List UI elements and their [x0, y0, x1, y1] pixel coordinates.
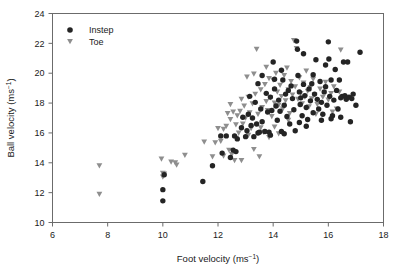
data-point-instep: [316, 106, 321, 111]
data-point-instep: [273, 103, 278, 108]
data-point-instep: [323, 62, 328, 67]
data-point-instep: [304, 105, 309, 110]
x-axis-title: Foot velocity (ms−1): [177, 253, 259, 265]
data-point-toe: [255, 112, 261, 117]
data-point-instep: [345, 59, 350, 64]
data-point-toe: [263, 65, 269, 70]
data-point-toe: [228, 117, 234, 122]
x-axis-ticks: 681012141618: [50, 223, 389, 240]
data-point-instep: [270, 59, 275, 64]
data-point-instep: [160, 198, 165, 203]
data-point-instep: [269, 108, 274, 113]
data-point-instep: [335, 106, 340, 111]
data-point-toe: [284, 66, 290, 71]
data-point-instep: [306, 86, 311, 91]
data-point-instep: [276, 97, 281, 102]
data-point-toe: [262, 82, 268, 87]
legend-label-instep: Instep: [89, 25, 114, 35]
data-point-instep: [235, 136, 240, 141]
data-point-instep: [251, 134, 256, 139]
data-point-instep: [313, 57, 318, 62]
data-point-instep: [277, 109, 282, 114]
data-point-instep: [259, 119, 264, 124]
scatter-plot-figure: 681012141618 1012141618202224 InstepToe …: [0, 0, 398, 274]
data-point-instep: [258, 106, 263, 111]
data-point-instep: [312, 91, 317, 96]
data-point-instep: [327, 94, 332, 99]
data-point-instep: [67, 27, 73, 33]
data-point-instep: [301, 82, 306, 87]
data-point-instep: [282, 131, 287, 136]
data-point-instep: [293, 128, 298, 133]
data-point-instep: [257, 129, 262, 134]
data-point-toe: [251, 71, 257, 76]
data-point-instep: [297, 120, 302, 125]
data-point-instep: [338, 115, 343, 120]
data-point-instep: [268, 132, 273, 137]
y-tick-label: 12: [34, 188, 44, 198]
data-point-instep: [219, 150, 224, 155]
data-point-toe: [303, 69, 309, 74]
y-tick-label: 16: [34, 128, 44, 138]
x-tick-label: 16: [323, 230, 333, 240]
y-tick-label: 10: [34, 218, 44, 228]
data-point-instep: [295, 47, 300, 52]
data-point-instep: [308, 98, 313, 103]
data-point-instep: [350, 91, 355, 96]
y-axis-ticks: 1012141618202224: [34, 9, 52, 228]
data-point-instep: [287, 121, 292, 126]
data-point-toe: [67, 39, 73, 44]
data-point-instep: [200, 179, 205, 184]
data-point-instep: [228, 155, 233, 160]
x-tick-label: 8: [105, 230, 110, 240]
data-point-toe: [320, 95, 326, 100]
data-point-toe: [244, 74, 250, 79]
data-point-instep: [240, 115, 245, 120]
data-point-toe: [263, 99, 269, 104]
data-point-instep: [160, 187, 165, 192]
data-point-toe: [338, 48, 344, 53]
data-point-instep: [299, 113, 304, 118]
data-point-toe: [269, 114, 275, 119]
data-point-toe: [251, 147, 257, 152]
data-point-toe: [254, 47, 260, 52]
data-point-instep: [243, 134, 248, 139]
data-point-instep: [331, 97, 336, 102]
data-point-instep: [275, 118, 280, 123]
data-point-instep: [321, 89, 326, 94]
chart-canvas: 681012141618 1012141618202224 InstepToe …: [0, 0, 398, 274]
data-point-instep: [291, 107, 296, 112]
data-point-instep: [290, 96, 295, 101]
data-point-instep: [302, 93, 307, 98]
data-point-instep: [255, 81, 260, 86]
data-point-instep: [337, 77, 342, 82]
data-point-toe: [96, 163, 102, 168]
y-tick-label: 22: [34, 39, 44, 49]
x-tick-label: 14: [268, 230, 278, 240]
data-point-toe: [234, 113, 240, 118]
data-point-instep: [317, 79, 322, 84]
data-point-instep: [233, 149, 238, 154]
data-point-toe: [218, 139, 224, 144]
data-point-instep: [253, 100, 258, 105]
data-point-instep: [282, 103, 287, 108]
data-point-toe: [239, 97, 245, 102]
data-point-instep: [244, 128, 249, 133]
data-point-instep: [301, 51, 306, 56]
data-point-toe: [239, 158, 245, 163]
y-tick-label: 18: [34, 98, 44, 108]
data-point-toe: [258, 87, 264, 92]
data-point-instep: [309, 81, 314, 86]
data-point-instep: [326, 39, 331, 44]
data-point-instep: [310, 72, 315, 77]
data-point-instep: [333, 67, 338, 72]
series-instep-markers: [160, 38, 363, 203]
x-tick-label: 12: [213, 230, 223, 240]
data-point-toe: [272, 124, 278, 129]
data-point-toe: [241, 104, 247, 109]
data-point-instep: [272, 76, 277, 81]
data-point-instep: [248, 123, 253, 128]
series-toe-markers: [96, 38, 347, 197]
data-point-toe: [159, 157, 165, 162]
data-point-instep: [295, 73, 300, 78]
